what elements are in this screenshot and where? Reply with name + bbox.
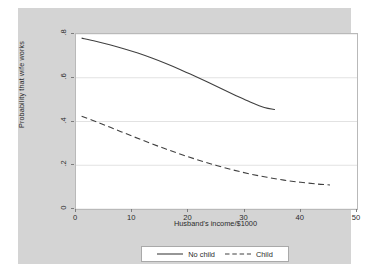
legend-entry: No child [157,250,215,259]
y-tick-mark [71,164,74,165]
y-tick-mark [71,77,74,78]
x-tick-mark [300,209,301,212]
y-tick-mark [71,121,74,122]
series-line-no-child [82,38,275,109]
legend-label: No child [188,250,215,259]
x-tick-mark [75,209,76,212]
gridlines [76,34,357,209]
y-tick-label: .4 [59,113,68,127]
y-tick-label: .2 [59,157,68,171]
x-axis-title: Husband's income/$1000 [75,219,356,228]
legend-key-solid-icon [157,250,183,258]
x-tick-mark [356,209,357,212]
legend-entry: Child [225,250,273,259]
x-tick-mark [131,209,132,212]
y-tick-label: .8 [59,26,68,40]
x-tick-mark [244,209,245,212]
series-paths [82,38,330,185]
legend-key-dashed-icon [225,250,251,258]
series-line-child [82,116,330,185]
plot-svg [76,34,357,209]
graph-region: Probability that wife works 0.2.4.6.8 01… [18,8,351,264]
y-axis-title: Probability that wife works [17,0,26,185]
y-tick-label: .6 [59,69,68,83]
legend-label: Child [256,250,273,259]
y-tick-mark [71,33,74,34]
figure: Probability that wife works 0.2.4.6.8 01… [0,0,370,273]
y-tick-mark [71,208,74,209]
plot-area [75,33,358,210]
legend: No childChild [141,246,289,262]
x-tick-mark [187,209,188,212]
